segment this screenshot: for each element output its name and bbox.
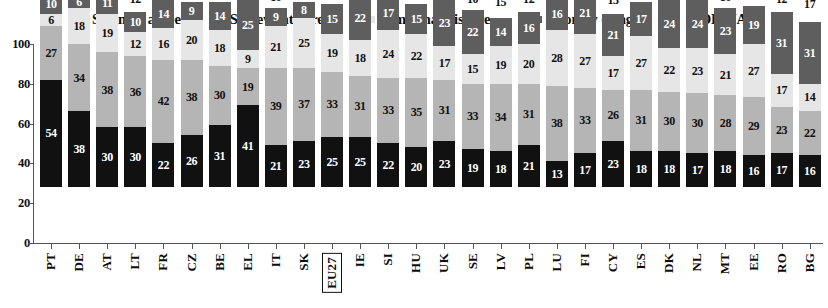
bar-stack-ee[interactable]: 162927199 <box>743 0 765 187</box>
bar-segment[interactable]: 34 <box>490 84 512 152</box>
x-axis-label-se[interactable]: SE <box>462 253 484 269</box>
bar-stack-pt[interactable]: 54276103 <box>40 0 62 187</box>
bar-segment[interactable]: 23 <box>433 141 455 187</box>
bar-stack-nl[interactable]: 173023247 <box>686 0 708 187</box>
x-axis-label-pt[interactable]: PT <box>40 253 62 270</box>
bar-segment[interactable]: 38 <box>181 60 203 136</box>
bar-segment[interactable]: 35 <box>405 78 427 148</box>
bar-stack-cy[interactable]: 2326172113 <box>602 0 624 187</box>
x-axis-label-cy[interactable]: CY <box>602 253 624 272</box>
x-axis-label-nl[interactable]: NL <box>686 253 708 271</box>
bar-segment[interactable]: 22 <box>349 0 371 40</box>
bar-segment[interactable]: 17 <box>686 153 708 187</box>
bar-segment[interactable]: 25 <box>349 137 371 187</box>
bar-stack-dk[interactable]: 183022245 <box>658 0 680 187</box>
bar-segment[interactable]: 36 <box>124 56 146 128</box>
bar-segment[interactable]: 33 <box>321 72 343 138</box>
bar-segment[interactable]: 15 <box>462 54 484 84</box>
x-axis-label-ie[interactable]: IE <box>349 253 371 267</box>
bar-segment[interactable]: 27 <box>630 36 652 90</box>
bar-stack-be[interactable]: 313018148 <box>209 0 231 187</box>
bar-segment[interactable]: 26 <box>602 90 624 142</box>
bar-segment[interactable]: 16 <box>518 12 540 44</box>
bar-segment[interactable]: 23 <box>433 0 455 46</box>
bar-segment[interactable]: 25 <box>237 0 259 50</box>
bar-segment[interactable]: 13 <box>602 0 624 14</box>
bar-segment[interactable]: 22 <box>658 48 680 92</box>
bar-segment[interactable]: 10 <box>714 0 736 8</box>
bar-segment[interactable]: 19 <box>96 14 118 52</box>
bar-segment[interactable]: 9 <box>237 50 259 68</box>
bar-stack-lt[interactable]: 3036121012 <box>124 0 146 187</box>
bar-segment[interactable]: 20 <box>181 20 203 60</box>
bar-segment[interactable]: 21 <box>602 14 624 56</box>
x-axis-label-lv[interactable]: LV <box>490 253 512 270</box>
bar-stack-hu[interactable]: 203522159 <box>405 0 427 187</box>
bar-segment[interactable]: 19 <box>743 6 765 44</box>
x-axis-label-pl[interactable]: PL <box>518 253 540 270</box>
bar-segment[interactable]: 11 <box>96 0 118 14</box>
bar-segment[interactable]: 6 <box>68 0 90 8</box>
bar-segment[interactable]: 18 <box>630 151 652 187</box>
bar-segment[interactable]: 42 <box>152 60 174 144</box>
x-axis-label-ro[interactable]: RO <box>771 253 793 273</box>
bar-segment[interactable]: 18 <box>68 8 90 44</box>
bar-segment[interactable]: 22 <box>462 10 484 54</box>
bar-segment[interactable]: 31 <box>799 22 821 84</box>
bar-stack-sk[interactable]: 23372587 <box>293 0 315 187</box>
bar-segment[interactable]: 24 <box>686 0 708 48</box>
bar-stack-lu[interactable]: 133828165 <box>546 0 568 187</box>
bar-segment[interactable]: 20 <box>405 147 427 187</box>
bar-segment[interactable]: 10 <box>265 0 287 8</box>
bar-segment[interactable]: 16 <box>152 28 174 60</box>
x-axis-label-si[interactable]: SI <box>377 253 399 266</box>
bar-segment[interactable]: 28 <box>546 30 568 86</box>
x-axis-label-dk[interactable]: DK <box>658 253 680 273</box>
x-axis-label-mt[interactable]: MT <box>714 253 736 274</box>
bar-segment[interactable]: 17 <box>433 46 455 80</box>
bar-segment[interactable]: 33 <box>462 84 484 150</box>
bar-segment[interactable]: 14 <box>152 0 174 28</box>
bar-stack-cz[interactable]: 26382096 <box>181 0 203 187</box>
x-axis-label-de[interactable]: DE <box>68 253 90 271</box>
bar-segment[interactable]: 37 <box>293 68 315 142</box>
bar-segment[interactable]: 8 <box>293 2 315 18</box>
bar-segment[interactable]: 23 <box>602 141 624 187</box>
bar-segment[interactable]: 18 <box>490 151 512 187</box>
bar-segment[interactable]: 10 <box>124 12 146 32</box>
bar-segment[interactable]: 12 <box>771 0 793 12</box>
bar-segment[interactable]: 7 <box>293 0 315 2</box>
bar-segment[interactable]: 18 <box>658 151 680 187</box>
bar-segment[interactable]: 23 <box>293 141 315 187</box>
bar-segment[interactable]: 54 <box>40 80 62 187</box>
bar-segment[interactable]: 6 <box>40 14 62 26</box>
bar-segment[interactable]: 15 <box>490 0 512 18</box>
bar-segment[interactable]: 26 <box>181 135 203 187</box>
bar-segment[interactable]: 17 <box>574 153 596 187</box>
bar-segment[interactable]: 17 <box>771 74 793 108</box>
bar-segment[interactable]: 16 <box>743 155 765 187</box>
bar-segment[interactable]: 16 <box>546 0 568 30</box>
x-axis-label-sk[interactable]: SK <box>293 253 315 271</box>
bar-stack-es[interactable]: 183127177 <box>630 0 652 187</box>
bar-segment[interactable]: 24 <box>658 0 680 48</box>
bar-segment[interactable]: 15 <box>321 4 343 34</box>
bar-segment[interactable]: 10 <box>40 0 62 14</box>
bar-segment[interactable]: 13 <box>546 161 568 187</box>
bar-segment[interactable]: 25 <box>293 18 315 68</box>
bar-segment[interactable]: 10 <box>462 0 484 10</box>
bar-segment[interactable]: 21 <box>518 145 540 187</box>
bar-stack-si[interactable]: 223324174 <box>377 0 399 187</box>
bar-stack-ro[interactable]: 1723173112 <box>771 0 793 187</box>
bar-segment[interactable]: 21 <box>574 0 596 34</box>
bar-segment[interactable]: 17 <box>771 153 793 187</box>
bar-segment[interactable]: 7 <box>321 0 343 4</box>
x-axis-label-eu27[interactable]: EU27 <box>321 253 343 293</box>
bar-segment[interactable]: 23 <box>714 8 736 54</box>
bar-segment[interactable]: 21 <box>265 26 287 68</box>
bar-stack-lv[interactable]: 1834191415 <box>490 0 512 187</box>
bar-stack-at[interactable]: 303819113 <box>96 0 118 187</box>
bar-stack-bg[interactable]: 1622143117 <box>799 0 821 187</box>
bar-segment[interactable]: 9 <box>265 8 287 26</box>
x-axis-label-at[interactable]: AT <box>96 253 118 271</box>
